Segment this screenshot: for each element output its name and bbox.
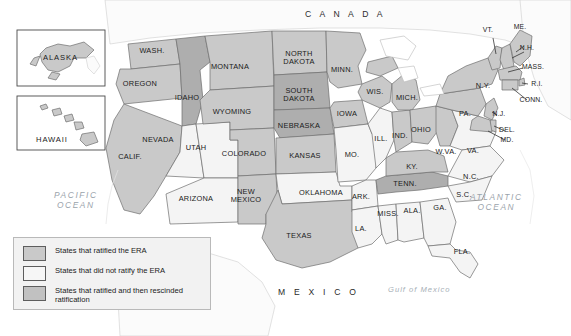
legend-item-not-ratified: States that did not ratify the ERA: [23, 266, 165, 281]
legend-swatch-rescinded: [23, 286, 46, 301]
legend-item-rescinded: States that ratified and then rescinded …: [23, 286, 205, 305]
legend-label-ratified: States that ratified the ERA: [55, 246, 147, 255]
map-legend: States that ratified the ERA States that…: [13, 237, 211, 310]
legend-label-not-ratified: States that did not ratify the ERA: [55, 266, 165, 275]
legend-item-ratified: States that ratified the ERA: [23, 246, 147, 261]
legend-label-rescinded: States that ratified and then rescinded …: [55, 286, 205, 305]
era-ratification-map: .s-rat { fill:#c9c9c9; stroke:#6e6e6e; s…: [0, 0, 571, 336]
legend-swatch-ratified: [23, 246, 46, 261]
legend-swatch-not-ratified: [23, 266, 46, 281]
